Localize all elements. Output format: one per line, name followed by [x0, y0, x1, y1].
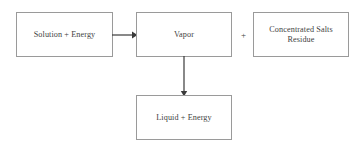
- arrow-solution-to-vapor: [112, 27, 138, 43]
- process-flow-diagram: Solution + Energy Vapor + Concentrated S…: [0, 0, 364, 148]
- node-vapor-label: Vapor: [171, 30, 197, 40]
- arrow-right-icon: [112, 27, 138, 43]
- node-solution-label: Solution + Energy: [31, 30, 99, 40]
- node-concentrated-salts-residue[interactable]: Concentrated Salts Residue: [253, 12, 349, 57]
- arrow-down-icon: [176, 56, 192, 97]
- node-vapor[interactable]: Vapor: [136, 12, 232, 57]
- node-liquid-label: Liquid + Energy: [153, 113, 215, 123]
- node-residue-label: Concentrated Salts Residue: [266, 25, 335, 44]
- plus-operator: +: [237, 27, 250, 42]
- arrow-vapor-to-liquid: [176, 56, 192, 97]
- node-liquid[interactable]: Liquid + Energy: [136, 95, 232, 140]
- node-solution[interactable]: Solution + Energy: [16, 12, 113, 57]
